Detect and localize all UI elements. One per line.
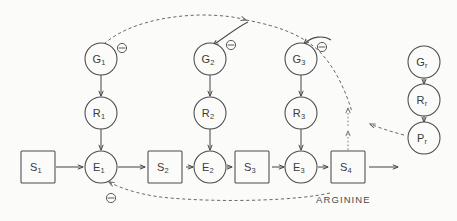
arginine-caption: ARGININE: [316, 194, 371, 205]
dashed-top-left-segment: [104, 15, 246, 44]
pr-action-arrow: [370, 124, 404, 135]
minus-icon-e1: [106, 193, 115, 202]
expression-arrows: [101, 74, 424, 150]
dashed-pr-to-center: [370, 124, 404, 135]
hook-into-g3: [304, 37, 331, 44]
pathway-diagram: S1 S2 S3 S4 E1 E2 E3 R1 R2 R3 G1 G2 G3 G…: [0, 0, 457, 221]
minus-icon-g3: [317, 42, 326, 51]
pathway-svg-canvas: S1 S2 S3 S4 E1 E2 E3 R1 R2 R3 G1 G2 G3 G…: [0, 0, 457, 221]
minus-icon-g1: [117, 43, 126, 52]
feedback-loop-to-e1: [109, 182, 330, 200]
minus-icon-g2: [226, 40, 235, 49]
dashed-arginine-to-e1: [109, 182, 330, 200]
hook-into-g2: [213, 22, 248, 45]
repressor-hooks: [213, 22, 331, 45]
